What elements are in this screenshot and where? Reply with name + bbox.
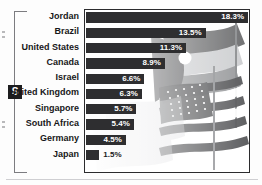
category-label-row: Japan <box>0 147 82 162</box>
bar-value-label: 4.5% <box>85 135 122 145</box>
chart-page: S JordanBrazilUnited StatesCanadaIsraelU… <box>0 0 262 185</box>
bar-row: 11.3% <box>85 41 249 56</box>
chart-plot-area: 18.3%13.5%11.3%8.9%6.6%6.3%5.7%5.4%4.5%1… <box>84 9 250 173</box>
category-label: Jordan <box>49 9 79 24</box>
bar-value-label: 5.4% <box>85 119 130 129</box>
category-label-row: Singapore <box>0 101 82 116</box>
bar-row: 13.5% <box>85 25 249 40</box>
category-label: South Africa <box>26 116 79 131</box>
category-label-row: United Kingdom <box>0 85 82 100</box>
bar-value-label: 8.9% <box>85 58 161 68</box>
category-label-row: South Africa <box>0 116 82 131</box>
category-label: Brazil <box>54 24 79 39</box>
bar-value-label: 11.3% <box>85 43 182 53</box>
category-label-row: Germany <box>0 131 82 146</box>
bar-value-label: 13.5% <box>85 28 202 38</box>
bar-row: 5.4% <box>85 117 249 132</box>
bar-row: 5.7% <box>85 102 249 117</box>
bar-value-label: 6.3% <box>85 89 138 99</box>
bar-row: 4.5% <box>85 132 249 147</box>
bar-row: 6.3% <box>85 86 249 101</box>
category-label: Israel <box>55 70 79 85</box>
bar-series: 18.3%13.5%11.3%8.9%6.6%6.3%5.7%5.4%4.5%1… <box>85 10 249 172</box>
category-label: United Kingdom <box>10 85 80 100</box>
bar-value-label: 18.3% <box>85 12 244 22</box>
bar-value-label: 5.7% <box>85 104 132 114</box>
bar-value-label: 6.6% <box>85 74 140 84</box>
category-label: United States <box>21 40 79 55</box>
bar-row: 8.9% <box>85 56 249 71</box>
bar-row: 1.5% <box>85 148 249 163</box>
bar-row: 6.6% <box>85 71 249 86</box>
category-label-row: Canada <box>0 55 82 70</box>
category-label: Japan <box>53 147 79 162</box>
category-label-column: JordanBrazilUnited StatesCanadaIsraelUni… <box>0 9 82 171</box>
category-label: Germany <box>40 131 79 146</box>
bar-row: 18.3% <box>85 10 249 25</box>
category-label-row: Israel <box>0 70 82 85</box>
bar <box>86 150 99 160</box>
footer-rule <box>6 179 258 180</box>
category-label: Canada <box>46 55 79 70</box>
category-label-row: Brazil <box>0 24 82 39</box>
category-label-row: United States <box>0 40 82 55</box>
category-label: Singapore <box>35 101 79 116</box>
category-label-row: Jordan <box>0 9 82 24</box>
bar-value-label: 1.5% <box>103 150 121 160</box>
